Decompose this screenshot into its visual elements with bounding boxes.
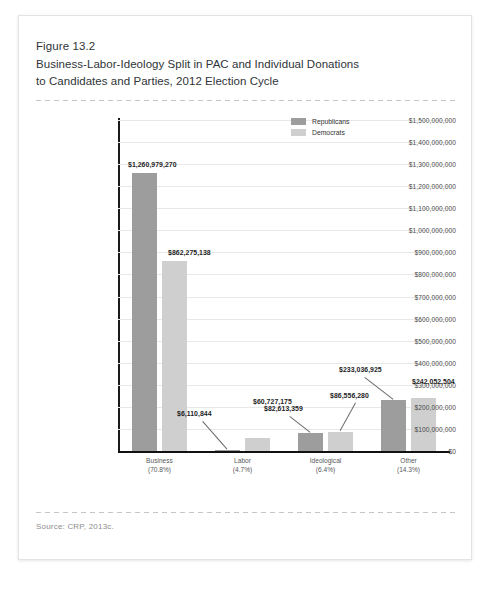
source-divider [36, 512, 456, 513]
y-axis-tick-label: $1,000,000,000 [380, 227, 456, 234]
category-percent: (14.3%) [397, 466, 420, 473]
y-axis-tick-label: $1,200,000,000 [380, 183, 456, 190]
category-percent: (6.4%) [316, 466, 335, 473]
legend-label-republicans: Republicans [312, 118, 349, 125]
category-percent: (4.7%) [233, 466, 252, 473]
value-label-business-republicans: $1,260,979,270 [128, 161, 177, 168]
y-axis-tick-label: $500,000,000 [380, 337, 456, 344]
category-name: Business [146, 457, 173, 464]
category-name: Labor [234, 457, 251, 464]
value-label-business-democrats: $862,275,138 [168, 249, 211, 256]
source-text: Source: CRP, 2013c. [36, 522, 456, 531]
category-name: Ideological [310, 457, 342, 464]
value-label-leader-line [289, 416, 310, 433]
legend-label-democrats: Democrats [312, 129, 345, 136]
figure-title-line-1: Business-Labor-Ideology Split in PAC and… [36, 56, 456, 73]
figure-page: Figure 13.2 Business-Labor-Ideology Spli… [18, 15, 472, 560]
y-axis-tick-label: $700,000,000 [380, 293, 456, 300]
x-axis-label-business: Business(70.8%) [118, 456, 201, 474]
y-axis-tick-label: $1,100,000,000 [380, 205, 456, 212]
bar-chart: $1,260,979,270$862,275,138$6,110,844$60,… [36, 112, 456, 472]
category-name: Other [400, 457, 417, 464]
bar-labor-republicans [215, 450, 240, 451]
y-axis-tick-label: $1,300,000,000 [380, 161, 456, 168]
legend-swatch-republicans [291, 118, 306, 125]
legend-item-democrats: Democrats [291, 127, 349, 138]
title-divider [36, 100, 456, 101]
value-label-ideological-republicans: $82,613,359 [264, 405, 303, 412]
bar-business-democrats [162, 261, 187, 451]
y-axis-tick-label: $900,000,000 [380, 249, 456, 256]
category-percent: (70.8%) [148, 466, 171, 473]
legend-item-republicans: Republicans [291, 116, 349, 127]
figure-title-line-2: to Candidates and Parties, 2012 Election… [36, 73, 456, 90]
x-axis-label-ideological: Ideological(6.4%) [284, 456, 367, 474]
x-axis-label-other: Other(14.3%) [367, 456, 450, 474]
bar-labor-democrats [245, 438, 270, 451]
figure-title: Business-Labor-Ideology Split in PAC and… [36, 56, 456, 90]
bar-business-republicans [132, 173, 157, 451]
bar-ideological-democrats [328, 432, 353, 451]
y-axis-tick-label: $0 [380, 448, 456, 455]
y-axis-tick-label: $1,400,000,000 [380, 139, 456, 146]
value-label-other-republicans: $233,036,925 [339, 366, 382, 373]
value-label-labor-democrats: $60,727,175 [253, 398, 292, 405]
figure-number: Figure 13.2 [36, 38, 456, 55]
legend-swatch-democrats [291, 129, 306, 136]
y-axis-tick-label: $600,000,000 [380, 315, 456, 322]
figure-content: Figure 13.2 Business-Labor-Ideology Spli… [36, 38, 456, 538]
value-label-labor-republicans: $6,110,844 [177, 410, 212, 417]
value-label-leader-line [202, 421, 227, 450]
y-axis-tick-label: $200,000,000 [380, 403, 456, 410]
y-axis-tick-label: $400,000,000 [380, 359, 456, 366]
y-axis-tick-label: $800,000,000 [380, 271, 456, 278]
chart-legend: Republicans Democrats [291, 116, 349, 138]
value-label-ideological-democrats: $86,556,280 [330, 392, 369, 399]
y-axis-tick-label: $100,000,000 [380, 425, 456, 432]
plot-area: $1,260,979,270$862,275,138$6,110,844$60,… [118, 120, 450, 451]
bar-ideological-republicans [298, 433, 323, 451]
y-axis-tick-label: $1,500,000,000 [380, 117, 456, 124]
source-block: Source: CRP, 2013c. [36, 502, 456, 531]
y-axis-tick-label: $300,000,000 [380, 381, 456, 388]
x-axis-label-labor: Labor(4.7%) [201, 456, 284, 474]
